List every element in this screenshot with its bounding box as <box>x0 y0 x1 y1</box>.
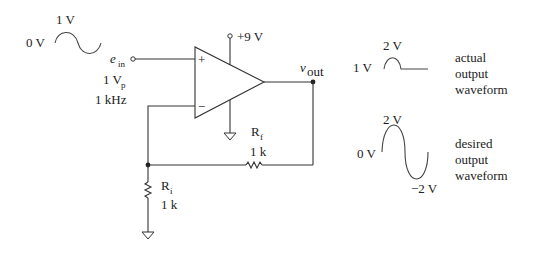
rf-subscript: f <box>260 132 263 142</box>
actual-baseline-label: 1 V <box>353 60 373 75</box>
input-peak-label: 1 V <box>56 12 76 27</box>
desired-trough-label: −2 V <box>411 181 438 196</box>
actual-caption-line-1: actual <box>455 50 486 65</box>
ri-label: R <box>161 178 170 193</box>
input-sine-curve <box>55 32 101 53</box>
desired-caption-line-1: desired <box>455 136 493 151</box>
input-terminal-circle <box>131 57 135 61</box>
desired-caption-line-2: output <box>455 152 489 167</box>
rf-resistor-zigzag <box>246 162 262 168</box>
desired-caption-line-3: waveform <box>455 168 508 183</box>
desired-output-curve <box>382 125 428 179</box>
input-baseline-label: 0 V <box>26 35 46 50</box>
ground-icon <box>224 133 236 140</box>
input-terminal: e in 1 V p 1 kHz <box>95 51 135 107</box>
desired-output-waveform: 2 V 0 V −2 V desired output waveform <box>357 112 508 196</box>
actual-peak-label: 2 V <box>383 38 403 53</box>
op-amp-ground <box>224 100 236 140</box>
actual-caption-line-2: output <box>455 66 489 81</box>
rf-value: 1 k <box>250 144 267 159</box>
actual-caption-line-3: waveform <box>455 82 508 97</box>
ein-subscript: in <box>118 59 126 69</box>
input-frequency-label: 1 kHz <box>95 92 127 107</box>
actual-output-curve <box>384 58 428 69</box>
inverting-input-wire <box>148 106 195 165</box>
ri-subscript: i <box>170 186 173 196</box>
input-amplitude-subscript: p <box>121 80 126 90</box>
ri-value: 1 k <box>161 197 178 212</box>
input-waveform: 1 V 0 V <box>26 12 101 54</box>
actual-output-waveform: 2 V 1 V actual output waveform <box>353 38 508 97</box>
vout-label: v <box>300 60 306 75</box>
vout-subscript: out <box>307 64 324 79</box>
supply-terminal-circle <box>228 34 232 38</box>
desired-baseline-label: 0 V <box>357 146 377 161</box>
ri-resistor-zigzag <box>145 182 151 198</box>
supply-rail: +9 V <box>228 29 264 65</box>
rf-label: R <box>251 124 260 139</box>
input-amplitude-label: 1 V <box>103 72 123 87</box>
ein-label: e <box>110 51 116 66</box>
ground-icon <box>142 232 154 239</box>
noninverting-input-symbol: + <box>198 52 205 67</box>
input-resistor: R i 1 k <box>142 165 178 239</box>
inverting-input-symbol: − <box>198 99 205 114</box>
supply-label: +9 V <box>237 29 264 44</box>
circuit-diagram: 1 V 0 V e in 1 V p 1 kHz + − +9 V v out <box>0 0 533 253</box>
